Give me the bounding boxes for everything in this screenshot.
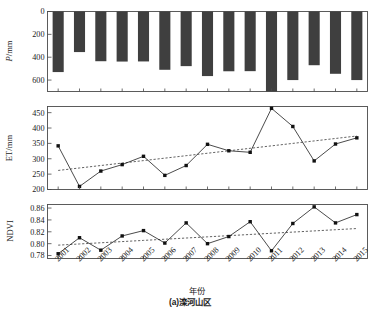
precip-bar [138, 12, 149, 62]
precip-y-tick-label: 200 [32, 30, 44, 39]
ndvi-y-tick-label: 0.86 [30, 204, 44, 213]
precip-bar [223, 12, 234, 72]
precip-bar [181, 12, 192, 67]
panel-precipitation: 0200400600 P/mm [4, 7, 368, 91]
et-plot-frame [48, 107, 368, 190]
precip-bars-group [53, 12, 363, 92]
et-y-tick-label: 300 [32, 155, 44, 164]
ndvi-data-point [291, 222, 294, 225]
et-data-point [120, 163, 123, 166]
et-data-point [291, 125, 294, 128]
x-axis-year-label: 2009 [224, 245, 242, 263]
x-axis-year-label: 2012 [288, 245, 306, 263]
precip-bar [245, 12, 256, 72]
precip-bar [309, 12, 320, 66]
ndvi-data-point [184, 221, 187, 224]
precip-axis-title: P/mm [4, 40, 14, 62]
precip-bar [351, 12, 362, 81]
x-axis-year-label: 2010 [245, 245, 263, 263]
precip-bar [159, 12, 170, 70]
ndvi-y-ticks: 0.780.800.820.840.86 [30, 204, 51, 260]
x-axis-year-label: 2007 [181, 245, 199, 263]
et-trend-line [58, 136, 357, 170]
et-data-point [56, 144, 59, 147]
panel-et: 200250300350400450 ET/mm [4, 107, 368, 195]
et-data-point [248, 151, 251, 154]
x-axis-year-labels: 2001200220032004200520062007200820092010… [53, 245, 370, 263]
x-axis-year-label: 2014 [331, 245, 349, 263]
ndvi-y-tick-label: 0.84 [30, 216, 44, 225]
et-data-point [227, 149, 230, 152]
et-data-point [206, 143, 209, 146]
ndvi-series-line [58, 207, 357, 254]
ndvi-y-tick-label: 0.80 [30, 240, 44, 249]
x-axis-year-label: 2006 [160, 245, 178, 263]
x-axis-year-label: 2003 [96, 245, 114, 263]
precip-bar [330, 12, 341, 74]
figure-caption: (a)滦河山区 [169, 297, 212, 307]
figure-container: 0200400600 P/mm 200250300350400450 ET/mm… [0, 0, 376, 315]
x-axis-year-label: 2004 [117, 245, 135, 263]
ndvi-data-point [206, 242, 209, 245]
et-y-tick-label: 400 [32, 124, 44, 133]
precip-y-tick-label: 600 [32, 76, 44, 85]
precip-y-tick-label: 0 [40, 7, 44, 16]
et-data-point [163, 174, 166, 177]
precip-bar [266, 12, 277, 92]
x-axis-year-label: 2005 [139, 245, 157, 263]
ndvi-data-point [163, 241, 166, 244]
x-axis-year-label: 2001 [53, 245, 71, 263]
et-data-point [184, 164, 187, 167]
x-axis-title: 年份 [189, 286, 206, 296]
x-axis-year-label: 2008 [203, 245, 221, 263]
precip-bar [74, 12, 85, 53]
et-y-tick-label: 350 [32, 139, 44, 148]
et-data-point [334, 142, 337, 145]
panel-ndvi: 0.780.800.820.840.86 2001200220032004200… [5, 204, 370, 263]
et-axis-title: ET/mm [4, 135, 14, 162]
precip-y-tick-label: 400 [32, 53, 44, 62]
ndvi-y-tick-label: 0.82 [30, 228, 44, 237]
precip-bar [53, 12, 64, 73]
et-data-point [355, 136, 358, 139]
precip-bar [95, 12, 106, 62]
ndvi-data-point [248, 220, 251, 223]
precip-bar [202, 12, 213, 77]
precip-y-ticks: 0200400600 [32, 7, 51, 85]
ndvi-data-point [78, 236, 81, 239]
x-axis-year-label: 2002 [75, 245, 93, 263]
ndvi-y-tick-label: 0.78 [30, 251, 44, 260]
ndvi-data-point [334, 221, 337, 224]
et-data-point [270, 107, 273, 110]
et-markers-group [56, 107, 358, 188]
et-data-point [99, 169, 102, 172]
et-data-point [142, 155, 145, 158]
ndvi-data-point [120, 234, 123, 237]
ndvi-data-point [312, 205, 315, 208]
et-y-ticks: 200250300350400450 [32, 109, 51, 195]
x-axis-year-label: 2013 [309, 245, 327, 263]
et-series-line [58, 108, 357, 186]
precip-bar [117, 12, 128, 62]
et-y-tick-label: 450 [32, 109, 44, 118]
ndvi-data-point [355, 213, 358, 216]
ndvi-markers-group [56, 205, 358, 255]
ndvi-data-point [227, 235, 230, 238]
ndvi-axis-title: NDVI [5, 220, 15, 242]
ndvi-data-point [142, 229, 145, 232]
et-data-point [312, 159, 315, 162]
precip-bar [287, 12, 298, 81]
et-y-tick-label: 200 [32, 185, 44, 194]
multi-panel-chart: 0200400600 P/mm 200250300350400450 ET/mm… [0, 0, 376, 315]
et-y-tick-label: 250 [32, 170, 44, 179]
